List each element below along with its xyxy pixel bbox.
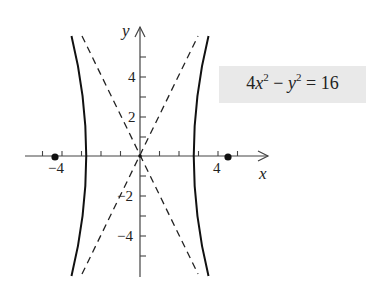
equation-box: 4x2 − y2 = 16 [219,66,366,103]
y-axis-label: y [120,21,130,40]
y-tick-label-neg2: −2 [117,188,133,204]
y-axis [135,27,145,277]
x-axis-label: x [258,164,267,183]
hyperbola-plot: −4 4 4 2 −2 −4 x y [0,0,374,290]
x-tick-label-4: 4 [213,160,221,176]
y-tick-label-4: 4 [128,69,136,85]
center-point [138,154,142,158]
equation-label: 4x2 − y2 = 16 [219,73,366,94]
x-tick-label-neg4: −4 [48,160,64,176]
y-tick-label-2: 2 [128,109,136,125]
focus-right-point [224,153,231,160]
y-tick-label-neg4: −4 [117,228,133,244]
